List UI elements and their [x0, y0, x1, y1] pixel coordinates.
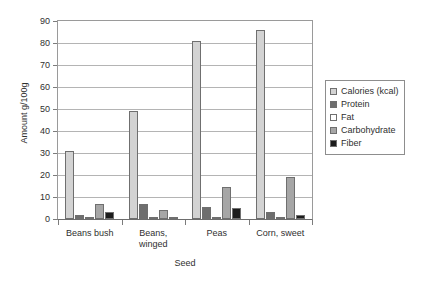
bar	[276, 217, 285, 219]
bar	[85, 217, 94, 219]
bar	[75, 215, 84, 219]
legend-swatch-icon	[330, 140, 337, 147]
bar	[159, 210, 168, 219]
bar	[296, 215, 305, 219]
bar	[105, 212, 114, 219]
legend-swatch-icon	[330, 88, 337, 95]
bar	[139, 204, 148, 219]
chart-legend: Calories (kcal)ProteinFatCarbohydrateFib…	[325, 80, 405, 155]
legend-item: Fiber	[330, 137, 399, 150]
y-tick-mark	[53, 109, 57, 110]
y-tick-label: 60	[24, 83, 50, 92]
y-tick-mark	[53, 175, 57, 176]
y-tick-label: 70	[24, 61, 50, 70]
y-tick-mark	[53, 87, 57, 88]
y-tick-label: 20	[24, 171, 50, 180]
y-tick-mark	[53, 21, 57, 22]
bar	[212, 217, 221, 219]
x-category-label: Corn, sweet	[249, 228, 313, 239]
bar	[169, 217, 178, 219]
y-tick-mark	[53, 43, 57, 44]
bar	[192, 41, 201, 219]
bar	[286, 177, 295, 219]
x-tick-mark	[122, 220, 123, 225]
legend-swatch-icon	[330, 127, 337, 134]
bar	[95, 204, 104, 219]
bar-group	[185, 21, 249, 219]
y-tick-mark	[53, 219, 57, 220]
y-tick-mark	[53, 65, 57, 66]
bar	[222, 187, 231, 219]
y-tick-label: 10	[24, 193, 50, 202]
bar	[202, 207, 211, 219]
y-tick-label: 80	[24, 39, 50, 48]
x-tick-mark	[312, 220, 313, 225]
bar	[266, 212, 275, 219]
x-tick-mark	[185, 220, 186, 225]
x-category-label: Beans bush	[58, 228, 122, 239]
legend-label: Carbohydrate	[341, 126, 396, 135]
bar-group	[122, 21, 186, 219]
x-category-label: Beans,winged	[122, 228, 186, 250]
y-tick-label: 50	[24, 105, 50, 114]
y-tick-label: 30	[24, 149, 50, 158]
plot-area	[57, 20, 313, 220]
y-tick-mark	[53, 197, 57, 198]
legend-label: Protein	[341, 100, 370, 109]
legend-swatch-icon	[330, 114, 337, 121]
legend-label: Fat	[341, 113, 354, 122]
bar	[256, 30, 265, 219]
x-tick-mark	[58, 220, 59, 225]
bar-chart: Amount g/100g 0102030405060708090Beans b…	[0, 0, 422, 281]
legend-item: Protein	[330, 98, 399, 111]
y-tick-mark	[53, 131, 57, 132]
bar	[232, 208, 241, 219]
x-axis-title: Seed	[57, 258, 313, 268]
bar-group	[58, 21, 122, 219]
bar	[149, 217, 158, 219]
y-tick-label: 0	[24, 215, 50, 224]
legend-item: Fat	[330, 111, 399, 124]
bar	[65, 151, 74, 219]
legend-label: Fiber	[341, 139, 362, 148]
bar-group	[249, 21, 313, 219]
legend-item: Carbohydrate	[330, 124, 399, 137]
bar	[129, 111, 138, 219]
x-category-label: Peas	[185, 228, 249, 239]
y-tick-mark	[53, 153, 57, 154]
legend-item: Calories (kcal)	[330, 85, 399, 98]
x-tick-mark	[249, 220, 250, 225]
legend-label: Calories (kcal)	[341, 87, 399, 96]
legend-swatch-icon	[330, 101, 337, 108]
y-tick-label: 90	[24, 17, 50, 26]
y-tick-label: 40	[24, 127, 50, 136]
